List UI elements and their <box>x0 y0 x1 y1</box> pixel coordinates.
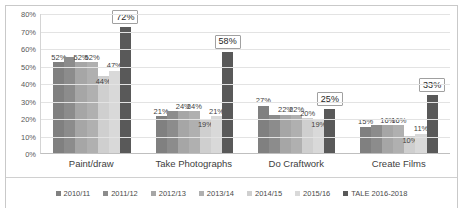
gridline <box>41 137 450 138</box>
legend-item[interactable]: 2015/16 <box>295 189 330 198</box>
y-axis-tick: 70% <box>6 27 36 36</box>
bar: 21% <box>156 116 167 153</box>
bar: 10% <box>404 136 415 154</box>
legend-label: TALE 2016-2018 <box>351 189 407 198</box>
bar: 21% <box>211 116 222 153</box>
bar: 52% <box>75 62 86 153</box>
bar-value-label: 33% <box>419 78 445 92</box>
chart-container: 80%70%60%50%40%30%20%10%0% 52%52%52%44%4… <box>5 5 458 208</box>
y-axis: 80%70%60%50%40%30%20%10%0% <box>6 14 39 154</box>
y-axis-tick: 40% <box>6 80 36 89</box>
x-axis-labels: Paint/drawTake PhotographsDo CraftworkCr… <box>40 155 450 175</box>
plot-area: 52%52%52%44%47%72%21%24%24%19%21%58%27%2… <box>40 14 450 154</box>
bar <box>371 125 382 153</box>
legend-swatch-icon <box>151 191 156 196</box>
legend-label: 2011/12 <box>111 189 138 198</box>
bar: 33% <box>427 95 438 153</box>
bar: 16% <box>382 125 393 153</box>
bar-value-label: 20% <box>300 110 315 118</box>
legend-label: 2014/15 <box>255 189 282 198</box>
bar: 22% <box>291 115 302 154</box>
legend-item[interactable]: 2012/13 <box>151 189 186 198</box>
gridline <box>41 67 450 68</box>
bar: 24% <box>178 111 189 153</box>
legend-swatch-icon <box>343 191 348 196</box>
bar: 24% <box>189 111 200 153</box>
y-axis-tick: 80% <box>6 10 36 19</box>
chart-legend: 2010/112011/122012/132013/142014/152015/… <box>6 177 457 208</box>
y-axis-tick: 30% <box>6 97 36 106</box>
legend-label: 2012/13 <box>159 189 186 198</box>
bar: 72% <box>120 27 131 153</box>
x-axis-category-label: Paint/draw <box>40 155 143 175</box>
legend-label: 2015/16 <box>303 189 330 198</box>
x-axis-category-label: Take Photographs <box>143 155 246 175</box>
legend-label: 2013/14 <box>207 189 234 198</box>
legend-item[interactable]: 2011/12 <box>103 189 138 198</box>
bar-value-label: 52% <box>85 54 100 62</box>
legend-item[interactable]: 2010/11 <box>56 189 91 198</box>
bar <box>269 115 280 154</box>
gridline <box>41 84 450 85</box>
y-axis-tick: 10% <box>6 132 36 141</box>
y-axis-tick: 0% <box>6 150 36 159</box>
bar: 27% <box>258 106 269 153</box>
bar-value-label: 72% <box>112 10 138 24</box>
plot-region: 80%70%60%50%40%30%20%10%0% 52%52%52%44%4… <box>6 6 457 177</box>
legend-swatch-icon <box>247 191 252 196</box>
bar <box>64 57 75 153</box>
legend-item[interactable]: TALE 2016-2018 <box>343 189 407 198</box>
x-axis-category-label: Create Films <box>348 155 451 175</box>
bar <box>167 111 178 153</box>
bar-value-label: 16% <box>391 117 406 125</box>
legend-item[interactable]: 2014/15 <box>247 189 282 198</box>
x-axis-category-label: Do Craftwork <box>245 155 348 175</box>
bar-value-label: 25% <box>317 92 343 106</box>
legend-swatch-icon <box>56 191 61 196</box>
legend-swatch-icon <box>295 191 300 196</box>
bar: 44% <box>98 76 109 153</box>
gridline <box>41 32 450 33</box>
legend-swatch-icon <box>103 191 108 196</box>
legend-swatch-icon <box>199 191 204 196</box>
legend-item[interactable]: 2013/14 <box>199 189 234 198</box>
bar: 52% <box>53 62 64 153</box>
bar: 22% <box>280 115 291 154</box>
bar: 25% <box>324 109 335 153</box>
legend-label: 2010/11 <box>64 189 91 198</box>
y-axis-tick: 20% <box>6 115 36 124</box>
gridline <box>41 14 450 15</box>
bar: 15% <box>360 127 371 153</box>
y-axis-tick: 50% <box>6 62 36 71</box>
y-axis-tick: 60% <box>6 45 36 54</box>
gridline <box>41 49 450 50</box>
bar-value-label: 24% <box>187 103 202 111</box>
gridline <box>41 119 450 120</box>
bar-value-label: 58% <box>215 35 241 49</box>
gridline <box>41 102 450 103</box>
